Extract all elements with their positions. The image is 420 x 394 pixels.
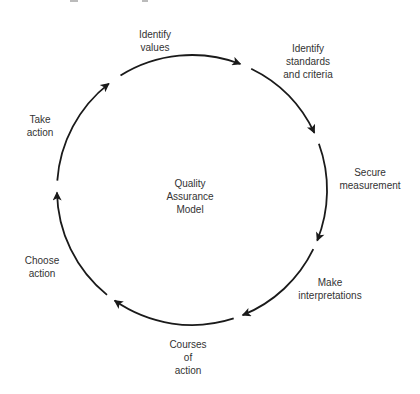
step-make-interpretations: Make interpretations — [298, 276, 361, 302]
step-identify-values: Identify values — [139, 28, 171, 54]
step-secure-measurement: Secure measurement — [339, 166, 400, 192]
arc-courses-to-choose-arrow — [115, 301, 234, 325]
step-label-line: and criteria — [283, 68, 332, 81]
step-identify-standards: Identify standards and criteria — [283, 42, 332, 81]
center-label-line: Quality — [166, 177, 213, 190]
step-label-line: action — [25, 267, 59, 280]
step-label-line: Identify — [139, 28, 171, 41]
step-take-action: Take action — [27, 113, 54, 139]
step-label-line: standards — [283, 55, 332, 68]
step-label-line: action — [169, 364, 206, 377]
step-label-line: Choose — [25, 254, 59, 267]
center-label-line: Model — [166, 203, 213, 216]
arc-take-to-values-arrow — [57, 84, 109, 181]
center-label-line: Assurance — [166, 190, 213, 203]
step-courses-of-action: Courses of action — [169, 338, 206, 377]
step-label-line: measurement — [339, 179, 400, 192]
step-label-line: Make — [298, 276, 361, 289]
step-choose-action: Choose action — [25, 254, 59, 280]
center-model-label: Quality Assurance Model — [166, 177, 213, 216]
arc-choose-to-take-arrow — [57, 192, 107, 295]
step-label-line: action — [27, 126, 54, 139]
step-label-line: of — [169, 351, 206, 364]
step-label-line: values — [139, 41, 171, 54]
step-label-line: interpretations — [298, 289, 361, 302]
arc-measurement-to-interpretations-arrow — [317, 144, 327, 241]
step-label-line: Identify — [283, 42, 332, 55]
step-label-line: Secure — [339, 166, 400, 179]
arc-values-to-standards-arrow — [121, 55, 241, 75]
step-label-line: Take — [27, 113, 54, 126]
step-label-line: Courses — [169, 338, 206, 351]
